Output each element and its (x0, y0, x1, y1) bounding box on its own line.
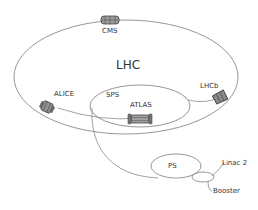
atlas-detector-icon (128, 114, 152, 124)
sps-label: SPS (106, 92, 119, 99)
booster-leader (208, 181, 212, 191)
lhc-label: LHC (116, 59, 140, 71)
booster-label: Booster (213, 188, 240, 195)
cms-label: CMS (102, 28, 117, 35)
cms-detector-icon (101, 16, 119, 24)
alice-label: ALICE (54, 91, 74, 98)
booster-ring (192, 172, 214, 182)
atlas-label: ATLAS (130, 102, 152, 109)
alice-detector-icon (39, 100, 56, 115)
lhc-ring (14, 20, 238, 134)
lhcb-label: LHCb (200, 83, 219, 90)
linac2-label: Linac 2 (222, 160, 247, 167)
diagram-lines (0, 0, 258, 210)
transfer-line-sps-alice (58, 108, 140, 119)
ps-label: PS (168, 163, 177, 170)
lhc-complex-diagram: CMS LHC ALICE LHCb SPS ATLAS PS Linac 2 … (0, 0, 258, 210)
